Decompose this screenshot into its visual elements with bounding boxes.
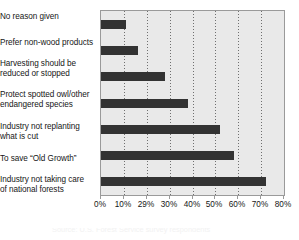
caption-strip: Source: U.S. Forest Service survey respo… bbox=[0, 228, 299, 240]
axis-tick-label: 80% bbox=[275, 200, 291, 210]
axis-tick-label: 40% bbox=[184, 200, 200, 210]
category-label: To save “Old Growth” bbox=[0, 154, 94, 164]
bar bbox=[101, 151, 234, 160]
category-label: Harvesting should be reduced or stopped bbox=[0, 59, 94, 80]
horizontal-bar-chart: No reason given Prefer non-wood products… bbox=[0, 0, 299, 240]
category-label: Industry not taking care of national for… bbox=[0, 175, 94, 196]
axis-tick-mark bbox=[100, 196, 101, 199]
axis-tick-mark bbox=[237, 196, 238, 199]
axis-tick-mark bbox=[283, 196, 284, 199]
value-axis: 0%10%29%30%40%50%60%70%80% bbox=[100, 196, 285, 214]
axis-tick-mark bbox=[214, 196, 215, 199]
plot-area bbox=[100, 10, 285, 196]
gridline bbox=[261, 11, 262, 195]
gridline bbox=[238, 11, 239, 195]
bar bbox=[101, 125, 220, 134]
gridline bbox=[193, 11, 194, 195]
axis-tick-label: 0% bbox=[94, 200, 106, 210]
category-axis: No reason given Prefer non-wood products… bbox=[0, 10, 96, 196]
axis-tick-label: 60% bbox=[229, 200, 245, 210]
axis-tick-mark bbox=[123, 196, 124, 199]
axis-tick-mark bbox=[192, 196, 193, 199]
category-label: No reason given bbox=[0, 12, 94, 22]
axis-tick-mark bbox=[169, 196, 170, 199]
bar bbox=[101, 177, 266, 186]
category-label: Prefer non-wood products bbox=[0, 38, 94, 48]
axis-tick-label: 70% bbox=[252, 200, 268, 210]
gridline bbox=[215, 11, 216, 195]
axis-tick-label: 30% bbox=[161, 200, 177, 210]
axis-tick-mark bbox=[260, 196, 261, 199]
axis-tick-label: 29% bbox=[138, 200, 154, 210]
axis-tick-label: 10% bbox=[115, 200, 131, 210]
bar bbox=[101, 99, 188, 108]
bar bbox=[101, 46, 138, 55]
category-label: Protect spotted owl/other endangered spe… bbox=[0, 90, 94, 111]
bar bbox=[101, 72, 165, 81]
bar bbox=[101, 20, 126, 29]
axis-tick-label: 50% bbox=[206, 200, 222, 210]
gridline bbox=[284, 11, 285, 195]
caption-text: Source: U.S. Forest Service survey respo… bbox=[52, 228, 210, 234]
axis-tick-mark bbox=[146, 196, 147, 199]
category-label: Industry not replanting what is cut bbox=[0, 122, 94, 143]
